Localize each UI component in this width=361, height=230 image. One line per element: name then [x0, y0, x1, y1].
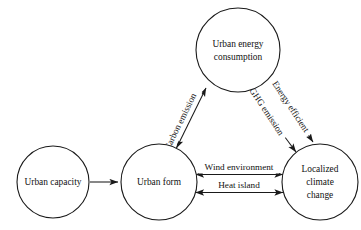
diagram-canvas: Carbon emission GHG emission Energy effi… [0, 0, 361, 230]
edge-form-climate-wind-label: Wind environment [205, 162, 274, 172]
node-urban-energy-consumption[interactable]: Urban energy consumption [196, 8, 280, 92]
node-urban-capacity[interactable]: Urban capacity [17, 146, 89, 218]
node-urban-energy-consumption-circle[interactable] [196, 8, 280, 92]
node-urban-form-label: Urban form [137, 177, 182, 187]
node-urban-energy-consumption-label-line1: Urban energy [212, 39, 263, 49]
edge-form-climate-wind: Wind environment [196, 161, 284, 174]
node-localized-climate-change[interactable]: Localized climate change [282, 144, 358, 220]
node-localized-climate-change-label-line2: climate [306, 177, 334, 187]
edge-form-energy-carbon-label: Carbon emission [162, 91, 199, 151]
node-urban-energy-consumption-label-line2: consumption [214, 52, 263, 62]
edge-form-climate-heat-label: Heat island [218, 180, 260, 190]
node-urban-capacity-label: Urban capacity [24, 177, 81, 187]
diagram-svg: Carbon emission GHG emission Energy effi… [0, 0, 361, 230]
edge-form-climate-heat: Heat island [196, 179, 284, 192]
node-localized-climate-change-label-line3: change [307, 190, 334, 200]
node-localized-climate-change-label-line1: Localized [302, 164, 339, 174]
node-urban-form[interactable]: Urban form [121, 144, 197, 220]
